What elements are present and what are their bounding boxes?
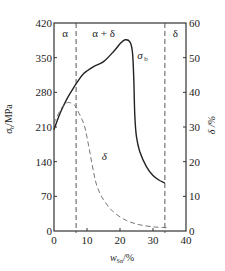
delta-curve [54, 102, 170, 227]
x-tick-label: 0 [51, 234, 57, 246]
region-label: δ [173, 27, 178, 39]
sigma-b-curve [54, 40, 165, 183]
y-right-tick-label: 60 [189, 17, 201, 29]
y-left-tick-label: 140 [36, 156, 53, 168]
y-right-tick-label: 10 [189, 190, 201, 202]
axis-ticks: 0102030400701402102803504200102030405060 [36, 17, 201, 246]
y-right-tick-label: 30 [189, 121, 201, 133]
plot-frame [54, 23, 186, 231]
y-left-tick-label: 0 [47, 225, 53, 237]
curves [54, 40, 170, 228]
region-label: α [62, 27, 68, 39]
x-axis-label: wSn/% [110, 252, 134, 264]
delta-label: δ [102, 150, 108, 162]
y-right-axis-label: δ /% [206, 116, 217, 134]
y-left-tick-label: 210 [36, 121, 53, 133]
y-right-tick-label: 20 [189, 156, 201, 168]
x-tick-label: 10 [82, 234, 94, 246]
y-left-tick-label: 350 [36, 52, 53, 64]
x-tick-label: 30 [148, 234, 160, 246]
y-left-tick-label: 280 [36, 86, 53, 98]
y-left-tick-label: 420 [36, 17, 53, 29]
y-left-tick-label: 70 [41, 190, 53, 202]
phase-boundaries [76, 23, 165, 233]
x-tick-label: 20 [115, 234, 127, 246]
y-right-tick-label: 0 [189, 225, 195, 237]
plot-area-border [54, 23, 186, 231]
y-right-tick-label: 40 [189, 86, 201, 98]
region-label: α + δ [92, 27, 115, 39]
sigma-b-label: σ b [137, 49, 148, 63]
y-left-axis-label: σb/MPa [3, 104, 15, 134]
y-right-tick-label: 50 [189, 52, 201, 64]
chart: 0102030400701402102803504200102030405060… [0, 0, 225, 271]
